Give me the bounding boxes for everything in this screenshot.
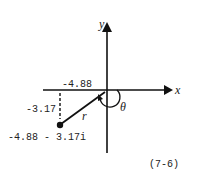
- complex-plane-diagram: y x -4.88 -3.17 r θ -4.88 - 3.17i (7-6): [0, 0, 198, 172]
- point-label: -4.88 - 3.17i: [8, 132, 86, 143]
- y-axis-label: y: [98, 17, 105, 31]
- real-part-label: -4.88: [62, 79, 92, 90]
- vector-r-label: r: [82, 109, 87, 123]
- equation-number-caption: (7-6): [149, 159, 179, 170]
- complex-point-marker: [57, 122, 63, 128]
- angle-theta-label: θ: [120, 100, 126, 114]
- imag-part-label: -3.17: [26, 104, 56, 115]
- x-axis-label: x: [174, 83, 181, 97]
- x-axis-arrow-icon: [164, 85, 173, 95]
